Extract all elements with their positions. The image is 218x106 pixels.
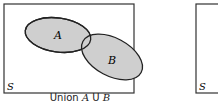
universe-label: S	[7, 81, 14, 92]
caption-union-op: U	[92, 92, 99, 103]
universe-label-2: S	[199, 81, 206, 92]
venn-diagram: A B S S	[0, 0, 218, 106]
caption-set-a: A	[82, 92, 89, 103]
caption-set-b: B	[103, 92, 110, 103]
universe-frame-2	[196, 4, 218, 93]
caption: Union A U B	[0, 92, 160, 103]
set-b-label: B	[107, 54, 116, 67]
set-a-label: A	[53, 29, 62, 42]
caption-prefix: Union	[50, 92, 79, 103]
